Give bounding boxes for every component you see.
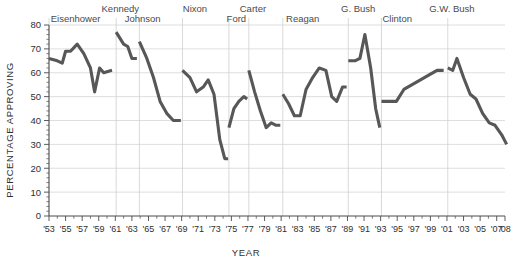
x-tick-label: '03 [458,224,470,234]
grid-layer [49,18,505,216]
president-label-clinton: Clinton [382,13,412,24]
x-tick-label: '01 [441,224,453,234]
x-tick-label: '63 [126,224,138,234]
x-tick-label: '73 [209,224,221,234]
x-tick-label: '53 [43,224,55,234]
y-tick-label: 60 [30,67,41,78]
series-line-johnson [139,42,180,121]
x-tick-label: '77 [242,224,254,234]
series-line-ford [229,97,247,128]
series-line-g-w-bush [448,58,507,144]
x-tick-label: '97 [408,224,420,234]
x-axis-title: YEAR [232,247,260,258]
president-labels: EisenhowerKennedyJohnsonNixonFordCarterR… [51,3,475,24]
president-label-reagan: Reagan [286,13,319,24]
x-tick-label: '61 [109,224,121,234]
x-tick-label: '75 [226,224,238,234]
x-tick-label: '87 [325,224,337,234]
president-label-johnson: Johnson [125,13,161,24]
x-tick-label: '65 [143,224,155,234]
series-layer [49,32,507,159]
x-tick-label: '99 [425,224,437,234]
y-axis-title: PERCENTAGE APPROVING [4,62,15,197]
y-tick-labels: 01020304050607080 [30,19,41,221]
president-label-g-w-bush: G.W. Bush [429,3,474,14]
x-tick-label: '69 [176,224,188,234]
series-line-eisenhower [49,44,112,92]
x-tick-label: '91 [358,224,370,234]
x-tick-label: '81 [275,224,287,234]
y-tick-label: 0 [36,210,41,221]
series-line-carter [249,70,281,127]
y-tick-label: 20 [30,163,41,174]
series-line-reagan [283,68,347,116]
x-tick-label: '79 [259,224,271,234]
y-tick-label: 30 [30,139,41,150]
x-tick-label: '57 [76,224,88,234]
presidential-approval-chart: 01020304050607080 '53'55'57'59'61'63'65'… [0,0,519,264]
x-tick-label: '71 [192,224,204,234]
x-tick-label: '95 [391,224,403,234]
x-tick-label: '59 [93,224,105,234]
x-tick-label: '89 [342,224,354,234]
president-label-nixon: Nixon [183,3,207,14]
president-label-ford: Ford [227,13,247,24]
x-tick-labels: '53'55'57'59'61'63'65'67'69'71'73'75'77'… [43,224,511,234]
y-tick-label: 80 [30,19,41,30]
x-tick-label: '93 [375,224,387,234]
x-tick-label: '67 [159,224,171,234]
x-tick-label: '55 [60,224,72,234]
x-tick-label: '08 [499,224,511,234]
series-line-kennedy [116,32,137,58]
y-tick-label: 10 [30,187,41,198]
x-tick-label: '85 [308,224,320,234]
series-line-nixon [182,70,228,158]
y-tick-label: 50 [30,91,41,102]
president-label-eisenhower: Eisenhower [51,13,101,24]
chart-canvas: 01020304050607080 '53'55'57'59'61'63'65'… [0,0,519,264]
president-label-carter: Carter [240,3,266,14]
y-tick-label: 40 [30,115,41,126]
x-tick-label: '05 [474,224,486,234]
president-label-g-bush: G. Bush [341,3,375,14]
y-tick-label: 70 [30,43,41,54]
x-tick-label: '83 [292,224,304,234]
